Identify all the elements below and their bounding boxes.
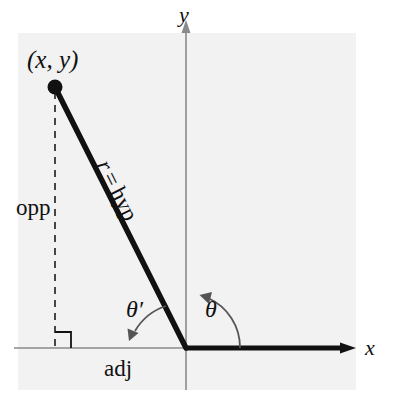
adjacent-label: adj (104, 357, 132, 380)
theta-label: θ (205, 297, 217, 321)
theta-prime-label: θ′ (126, 297, 143, 321)
point-label: (x, y) (27, 47, 78, 72)
y-axis-label: y (179, 4, 189, 26)
figure-canvas: (x, y) opp adj r=hyp θ′ θ y x (0, 0, 394, 407)
opposite-label: opp (16, 196, 51, 219)
x-axis-label: x (365, 337, 375, 359)
background-panel (18, 33, 356, 390)
point-dot (48, 80, 63, 95)
